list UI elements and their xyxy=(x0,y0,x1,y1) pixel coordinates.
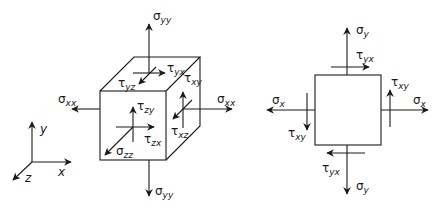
sigma-y-top-label: σy xyxy=(356,23,370,39)
x-axis-label: x xyxy=(57,165,66,179)
sigma-yy-top-label: σyy xyxy=(153,9,172,25)
sigma-x-right-label: σx xyxy=(413,93,427,109)
cube-stress-element: σyy σyy σxx σxx τyx τyz τxy τxz τzy τzx … xyxy=(58,9,236,200)
z-axis-label: z xyxy=(24,171,32,185)
sigma-xx-left-label: σxx xyxy=(58,92,77,108)
tau-zy-label: τzy xyxy=(137,99,155,115)
tau-yx-top-label: τyx xyxy=(356,48,375,64)
sigma-yy-bottom-label: σyy xyxy=(155,184,174,200)
sigma-zz-label: σzz xyxy=(116,144,133,160)
plane-stress-element: σy σy σx σx τyx τyx τxy τxy xyxy=(267,23,428,195)
tau-yz-label: τyz xyxy=(118,76,136,92)
square-element xyxy=(315,75,381,145)
tau-yx-bottom-label: τyx xyxy=(322,161,341,177)
sigma-x-left-label: σx xyxy=(272,93,286,109)
y-axis-label: y xyxy=(39,122,48,136)
stress-diagram: σyy σyy σxx σxx τyx τyz τxy τxz τzy τzx … xyxy=(0,0,442,210)
tau-xy-right-label: τxy xyxy=(391,75,410,91)
coordinate-axes: y x z xyxy=(13,122,71,185)
sigma-xx-right-label: σxx xyxy=(217,92,236,108)
tau-yz-arrow xyxy=(139,67,156,84)
tau-xy-left-label: τxy xyxy=(288,126,307,142)
sigma-y-bottom-label: σy xyxy=(356,179,370,195)
tau-xz-label: τxz xyxy=(171,124,189,140)
tau-yx-label: τyx xyxy=(167,61,186,77)
tau-zx-label: τzx xyxy=(144,132,162,148)
